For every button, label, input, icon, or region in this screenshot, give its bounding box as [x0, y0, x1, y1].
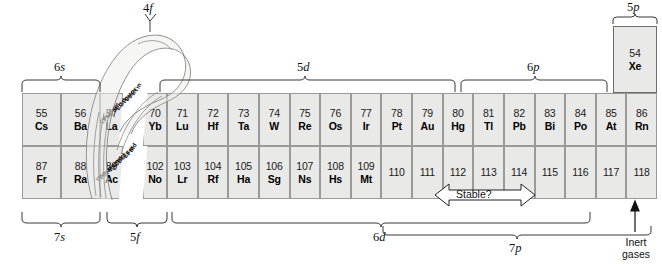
orbital-label-6d: 6d: [373, 230, 386, 245]
inert-gases-line-2: gases: [612, 248, 660, 260]
orbital-label-7s: 7s: [54, 230, 65, 245]
orbital-label-6p: 6p: [527, 60, 540, 75]
orbital-label-5f: 5f: [130, 230, 140, 245]
orbital-label-5d: 5d: [297, 60, 310, 75]
orbital-label-7p: 7p: [509, 241, 522, 256]
orbital-label-6s: 6s: [54, 60, 65, 75]
orbital-label-5p: 5p: [627, 0, 640, 15]
stable-annotation: Stable?: [456, 188, 492, 200]
inert-gases-label: Inert gases: [612, 236, 660, 260]
diagram-overlay: [0, 0, 662, 264]
periodic-table-diagram: 54 Xe 55Cs56Ba57La70Yb71Lu72Hf73Ta74W75R…: [0, 0, 662, 264]
inert-gases-line-1: Inert: [612, 236, 660, 248]
orbital-label-4f: 4f: [143, 1, 153, 16]
